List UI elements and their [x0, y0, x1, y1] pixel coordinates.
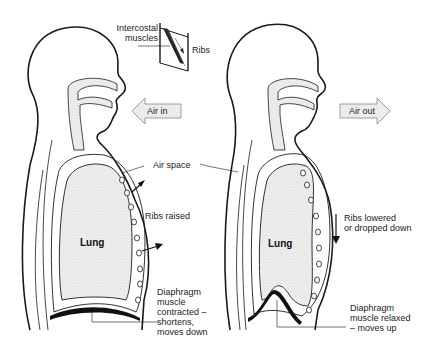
diaphragm-l-line-3: contracted – — [157, 307, 208, 317]
diaphragm-relaxed-label: Diaphragm muscle relaxed – moves up — [350, 303, 411, 333]
diaphragm-l-line-5: moves down — [157, 327, 208, 337]
left-lung-label: Lung — [80, 237, 104, 248]
intercostal-muscles-label: Intercostal muscles — [108, 23, 158, 43]
diaphragm-r-line-1: Diaphragm — [350, 303, 411, 313]
diaphragm-l-line-4: shortens, — [157, 317, 208, 327]
air-in-label: Air in — [147, 106, 168, 116]
air-out-label: Air out — [349, 106, 375, 116]
inhale-figure — [22, 23, 188, 330]
diaphragm-r-line-3: – moves up — [350, 323, 411, 333]
breathing-diagram: Intercostal muscles Ribs Air in Air out … — [0, 0, 439, 355]
diaphragm-l-line-1: Diaphragm — [157, 287, 208, 297]
intercostal-line-1: Intercostal — [108, 23, 158, 33]
ribs-raised-label: Ribs raised — [145, 211, 190, 221]
right-lung-label: Lung — [268, 238, 292, 249]
diaphragm-l-line-2: muscle — [157, 297, 208, 307]
ribs-lowered-label: Ribs lowered or dropped down — [344, 213, 412, 233]
diaphragm-r-line-2: muscle relaxed — [350, 313, 411, 323]
exhale-figure — [200, 24, 390, 330]
inset-ribs-label: Ribs — [192, 45, 210, 55]
air-space-label: Air space — [153, 160, 191, 170]
intercostal-line-2: muscles — [108, 33, 158, 43]
ribs-lowered-line-2: or dropped down — [344, 223, 412, 233]
diaphragm-contracted-label: Diaphragm muscle contracted – shortens, … — [157, 287, 208, 337]
diagram-drawing — [0, 0, 439, 355]
ribs-lowered-line-1: Ribs lowered — [344, 213, 412, 223]
